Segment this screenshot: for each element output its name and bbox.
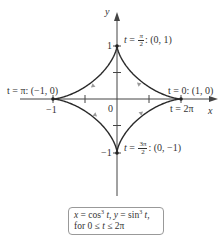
y-tick-label-neg1: −1 xyxy=(101,148,112,158)
y-tick-label-1: 1 xyxy=(107,41,112,51)
point-right xyxy=(179,97,183,101)
coord: : (0, 1) xyxy=(145,34,172,45)
frac-den: 2 xyxy=(138,41,144,48)
frac-den: 2 xyxy=(138,149,147,156)
label-top-point: t = π2: (0, 1) xyxy=(124,33,172,48)
coord: : (0, −1) xyxy=(148,142,181,153)
point-top xyxy=(115,44,119,48)
range-post: ≤ 2π xyxy=(105,221,125,231)
formula-box: x = cos3 t, y = sin3 t, for 0 ≤ t ≤ 2π xyxy=(68,207,164,235)
label-left-point: t = π: (−1, 0) xyxy=(7,86,58,96)
label-bottom-point: t = 3π2: (0, −1) xyxy=(124,141,181,156)
sin-text: = sin xyxy=(118,210,139,220)
comma: , xyxy=(147,210,149,220)
formula-line-1: x = cos3 t, y = sin3 t, xyxy=(74,210,163,221)
label-right-point: t = 0: (1, 0) xyxy=(168,86,213,96)
fraction: 3π2 xyxy=(138,141,147,156)
fraction: π2 xyxy=(138,33,144,48)
point-left xyxy=(51,97,55,101)
label-right-point-2pi: t = 2π xyxy=(170,104,193,114)
astroid-figure xyxy=(0,0,222,242)
range-pre: for 0 ≤ xyxy=(74,221,102,231)
eq: = xyxy=(127,142,138,153)
y-axis-arrow-icon xyxy=(114,12,120,21)
direction-arrow-icon xyxy=(90,83,96,89)
formula-line-2: for 0 ≤ t ≤ 2π xyxy=(74,221,163,232)
cos-text: = cos xyxy=(78,210,101,220)
x-axis-arrow-icon xyxy=(209,96,218,102)
y-axis-label: y xyxy=(105,7,109,17)
x-tick-label-neg1: −1 xyxy=(46,105,57,115)
origin-label: 0 xyxy=(108,104,113,114)
eq: = xyxy=(127,34,138,45)
x-axis-label: x xyxy=(208,106,212,116)
point-bottom xyxy=(115,151,119,155)
